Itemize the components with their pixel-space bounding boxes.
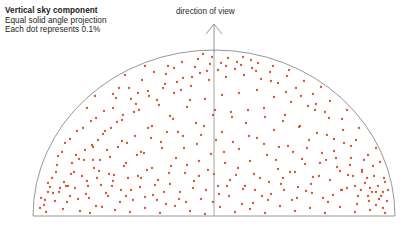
sky-dot (109, 156, 111, 158)
sky-dot (120, 189, 122, 191)
sky-dot (238, 148, 240, 150)
sky-dot (127, 177, 129, 179)
sky-dot (88, 197, 90, 199)
sky-dot (314, 109, 316, 111)
sky-dot (156, 199, 158, 201)
sky-dot (65, 185, 67, 187)
sky-dot (104, 130, 106, 132)
sky-dot (76, 130, 78, 132)
sky-dot (125, 195, 127, 197)
sky-dot (62, 208, 64, 210)
sky-dot (112, 180, 114, 182)
sky-dot (273, 96, 275, 98)
sky-dot (86, 107, 88, 109)
sky-dot (212, 201, 214, 203)
sky-dot (383, 177, 385, 179)
sky-dot (263, 143, 265, 145)
sky-dot (312, 176, 314, 178)
sky-dot (70, 173, 72, 175)
sky-dot (119, 201, 121, 203)
sky-dot (250, 59, 252, 61)
figure-caption: Vertical sky component Equal solid angle… (5, 6, 107, 35)
sky-dot (93, 167, 95, 169)
sky-dot (277, 82, 279, 84)
sky-dot (356, 203, 358, 205)
sky-dot (136, 154, 138, 156)
sky-dot (267, 199, 269, 201)
sky-dot (319, 162, 321, 164)
sky-dot (363, 159, 365, 161)
sky-dot (243, 74, 245, 76)
sky-dot (115, 97, 117, 99)
sky-dot (256, 89, 258, 91)
sky-dot (112, 93, 114, 95)
sky-dot (192, 187, 194, 189)
sky-dot (184, 172, 186, 174)
sky-dot (294, 210, 296, 212)
sky-dot (322, 197, 324, 199)
sky-dot (133, 111, 135, 113)
sky-dot (160, 141, 162, 143)
sky-dot (47, 182, 49, 184)
sky-dot (257, 62, 259, 64)
sky-dot (173, 67, 175, 69)
sky-dot (326, 134, 328, 136)
sky-dot (282, 120, 284, 122)
sky-dot (172, 118, 174, 120)
sky-dot (106, 149, 108, 151)
sky-dot (66, 201, 68, 203)
sky-dot (280, 183, 282, 185)
sky-dot (369, 187, 371, 189)
sky-dot (249, 208, 251, 210)
sky-dot (255, 70, 257, 72)
sky-dot (327, 201, 329, 203)
sky-dot (247, 109, 249, 111)
sky-dot (110, 127, 112, 129)
sky-dot (178, 198, 180, 200)
sky-dot (382, 207, 384, 209)
sky-dot (369, 209, 371, 211)
sky-dot (229, 179, 231, 181)
sky-dot (95, 117, 97, 119)
sky-dot (328, 117, 330, 119)
sky-dot (166, 131, 168, 133)
sky-dot (57, 155, 59, 157)
sky-dot (350, 157, 352, 159)
sky-dot (309, 207, 311, 209)
sky-dot (200, 134, 202, 136)
sky-dot (199, 72, 201, 74)
sky-dot (306, 147, 308, 149)
sky-dot (237, 167, 239, 169)
sky-dot (307, 105, 309, 107)
sky-dot (375, 191, 377, 193)
sky-dot (228, 195, 230, 197)
sky-dot (45, 211, 47, 213)
sky-dot (278, 146, 280, 148)
sky-dot (194, 66, 196, 68)
sky-dot (324, 212, 326, 214)
sky-dot (82, 127, 84, 129)
sky-dot (207, 169, 209, 171)
sky-dot (107, 195, 109, 197)
sky-dot (113, 174, 115, 176)
sky-dot (375, 147, 377, 149)
sky-dot (264, 116, 266, 118)
sky-dot (43, 204, 45, 206)
sky-dot (217, 185, 219, 187)
sky-dot (169, 183, 171, 185)
direction-of-view-label: direction of view (176, 7, 235, 16)
sky-dot (299, 125, 301, 127)
sky-dot (198, 160, 200, 162)
sky-dot (227, 57, 229, 59)
sky-dot (151, 167, 153, 169)
sky-dot (152, 194, 154, 196)
sky-dot (92, 146, 94, 148)
sky-dot (379, 161, 381, 163)
sky-dot (221, 131, 223, 133)
sky-dot (85, 193, 87, 195)
sky-dot (40, 197, 42, 199)
sky-dot (123, 165, 125, 167)
sky-dot (211, 56, 213, 58)
sky-dot (121, 119, 123, 121)
sky-dot (105, 192, 107, 194)
